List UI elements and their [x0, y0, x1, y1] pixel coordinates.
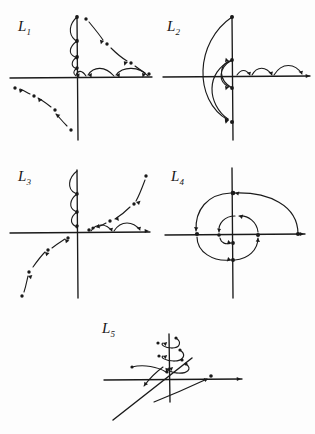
panel-label-L1: L1: [18, 18, 31, 37]
spiral-arcs-L4: [196, 193, 298, 260]
points-L4: [195, 191, 300, 262]
panel-L5-plot: [70, 310, 250, 434]
x-axis-L5: [104, 379, 242, 380]
figure-sheet: L1: [0, 0, 315, 434]
x-axis-L2: [163, 76, 310, 77]
dotted-orbit-q3-L1: [13, 86, 72, 131]
panel-L4: L4: [155, 150, 315, 310]
panel-label-L5: L5: [102, 320, 115, 339]
x-axis-L3: [10, 232, 150, 233]
dotted-orbit-q3-segments-L1: [20, 89, 67, 126]
vertical-arcs-L3: [70, 171, 77, 226]
right-arcs-L2: [237, 66, 302, 76]
dotted-orbit-q3-arrowheads-L1: [19, 89, 60, 118]
axis-tip-arrow-L2: [306, 74, 310, 78]
y-axis-L4: [232, 168, 233, 298]
big-arc-arrowheads-L2: [225, 58, 229, 124]
panel-L2: L2: [155, 0, 315, 150]
y-axis-L3: [77, 170, 78, 298]
panel-L1: L1: [0, 0, 160, 150]
dotted-orbit-q1-L1: [84, 17, 150, 75]
panel-L3: L3: [0, 150, 160, 310]
spiral-arrowheads-L4: [194, 191, 260, 261]
dotted-orbit-lower-left-arrowheads-L3: [28, 239, 69, 279]
panel-L5: L5: [70, 310, 250, 434]
x-axis-L4: [165, 234, 305, 235]
dotted-orbit-lower-left-segments-L3: [24, 239, 65, 292]
big-arcs-L2: [203, 17, 232, 120]
horizontal-arcs-L1: [76, 68, 148, 76]
panel-label-L4: L4: [171, 168, 184, 187]
x-axis-L1: [10, 77, 152, 78]
panel-label-L3: L3: [18, 168, 31, 187]
y-axis-L1: [77, 16, 78, 140]
axis-tip-arrow-L4: [300, 232, 304, 236]
dotted-orbit-lower-left-L3: [20, 236, 69, 297]
panel-label-L2: L2: [167, 18, 180, 37]
dotted-orbit-q1-segments-L1: [89, 22, 145, 73]
